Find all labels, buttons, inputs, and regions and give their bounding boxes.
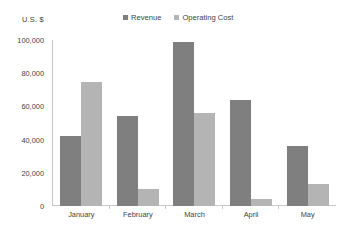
x-axis-tick-label: January	[53, 210, 110, 219]
bar-groups	[53, 40, 336, 206]
x-axis-tick-label: April	[223, 210, 280, 219]
legend-item-revenue[interactable]: Revenue	[123, 14, 161, 22]
y-axis-tick-label: 0	[40, 202, 44, 211]
x-axis-tick-labels: JanuaryFebruaryMarchAprilMay	[53, 210, 336, 219]
legend-item-operating-cost[interactable]: Operating Cost	[174, 14, 233, 22]
y-axis-tick-label: 40,000	[21, 135, 44, 144]
bar-revenue[interactable]	[60, 136, 81, 206]
category-separator-tick	[165, 206, 166, 209]
bar-chart: U.S. $ Revenue Operating Cost 100,00080,…	[0, 0, 356, 236]
bar-operating-cost[interactable]	[138, 189, 159, 206]
x-axis-tick-label: February	[110, 210, 167, 219]
bar-group	[279, 40, 336, 206]
legend-label-operating-cost: Operating Cost	[182, 14, 233, 22]
bar-operating-cost[interactable]	[308, 184, 329, 206]
bar-group	[53, 40, 110, 206]
y-axis-tick-label: 20,000	[21, 168, 44, 177]
x-axis-tick-label: May	[279, 210, 336, 219]
bar-revenue[interactable]	[287, 146, 308, 206]
bar-group	[166, 40, 223, 206]
y-axis-tick-label: 60,000	[21, 102, 44, 111]
bar-operating-cost[interactable]	[251, 199, 272, 206]
category-separator-tick	[222, 206, 223, 209]
bar-operating-cost[interactable]	[194, 113, 215, 206]
chart-legend: Revenue Operating Cost	[123, 14, 233, 22]
x-axis-tick-label: March	[166, 210, 223, 219]
plot-area	[52, 40, 336, 206]
bar-revenue[interactable]	[173, 42, 194, 206]
bar-group	[223, 40, 280, 206]
legend-swatch-revenue	[123, 15, 128, 20]
y-axis-tick-label: 80,000	[21, 69, 44, 78]
category-separator-tick	[109, 206, 110, 209]
legend-label-revenue: Revenue	[131, 14, 161, 22]
category-separator-tick	[278, 206, 279, 209]
y-axis-tick-labels: 100,00080,00060,00040,00020,0000	[0, 40, 48, 206]
bar-revenue[interactable]	[117, 116, 138, 206]
bar-revenue[interactable]	[230, 100, 251, 206]
y-axis-title: U.S. $	[22, 15, 44, 24]
y-axis-tick-label: 100,000	[17, 36, 44, 45]
bar-group	[110, 40, 167, 206]
bar-operating-cost[interactable]	[81, 82, 102, 207]
legend-swatch-operating-cost	[174, 15, 179, 20]
